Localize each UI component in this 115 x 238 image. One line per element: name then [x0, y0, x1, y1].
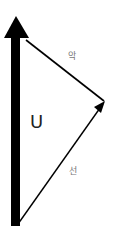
main-vector-arrow [4, 16, 29, 226]
vector-diagram [0, 0, 115, 238]
main-vector-label: U [30, 113, 43, 131]
upper-edge-label: 악 [68, 52, 76, 61]
upper-edge-line [26, 40, 104, 101]
lower-edge-label: 선 [69, 167, 77, 176]
